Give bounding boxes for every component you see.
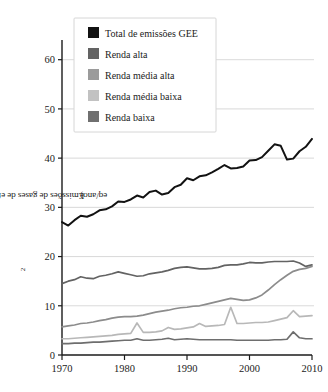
y-tick-label: 40 [45,153,56,164]
y-tick-label: 10 [45,301,56,312]
series-line [62,307,312,339]
x-tick-label: 1970 [52,363,73,374]
series-line [62,261,312,284]
x-tick-label: 1990 [177,363,198,374]
y-axis-ticks: 0102030405060 [45,54,63,360]
data-series-group [62,139,312,344]
y-tick-label: 0 [50,350,55,361]
x-tick-label: 1980 [114,363,135,374]
legend-label: Total de emissões GEE [105,28,198,39]
line-chart-canvas: 0102030405060 19701980199020002010 Total… [0,0,328,392]
legend-label: Renda alta [105,49,148,60]
y-tick-label: 60 [45,54,56,65]
y-tick-label: 20 [45,251,56,262]
legend-swatch [88,69,99,80]
legend-swatch [88,111,99,122]
x-tick-label: 2010 [302,363,323,374]
series-line [62,332,312,344]
chart-legend: Total de emissões GEERenda altaRenda méd… [74,18,216,132]
y-tick-label: 50 [45,104,56,115]
legend-label: Renda baixa [105,112,155,123]
series-line [62,139,312,226]
legend-swatch [88,48,99,59]
legend-swatch [88,90,99,101]
x-axis-ticks: 19701980199020002010 [52,355,323,374]
y-tick-label: 30 [45,202,56,213]
legend-swatch [88,27,99,38]
x-tick-label: 2000 [239,363,260,374]
chart-figure: Emissões de gases de efeito estufa (GtCO… [0,0,328,392]
legend-label: Renda média baixa [105,91,182,102]
legend-label: Renda média alta [105,70,175,81]
